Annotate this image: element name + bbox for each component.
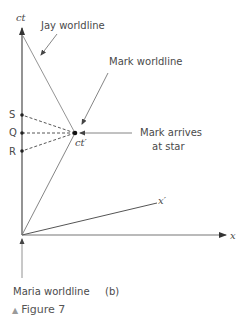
event-ct-prime-label: ct′	[75, 138, 87, 148]
x-axis-label: x	[230, 231, 236, 241]
x-prime-axis-label: x′	[158, 196, 166, 206]
figure-caption: ▲Figure 7	[12, 303, 65, 316]
point-S	[20, 113, 24, 117]
mark-arrives-label-line1: Mark arrives	[140, 128, 202, 138]
caption-text: Figure 7	[21, 303, 65, 316]
ct-axis-label: ct	[16, 13, 26, 23]
maria-worldline-label: Maria worldline	[13, 287, 90, 297]
jay-worldline-label: Jay worldline	[41, 21, 105, 31]
panel-label: (b)	[105, 287, 119, 297]
mark-worldline-label: Mark worldline	[109, 57, 182, 67]
point-R	[20, 149, 24, 153]
point-Q-label: Q	[9, 128, 17, 138]
point-R-label: R	[9, 147, 16, 157]
event-mark-arrives	[73, 131, 78, 136]
mark-pointer	[82, 73, 108, 124]
spacetime-diagram	[0, 0, 243, 320]
x-prime-axis	[22, 203, 157, 235]
point-S-label: S	[9, 110, 15, 120]
jay-pointer	[41, 34, 57, 55]
point-Q	[20, 131, 24, 135]
caption-triangle-icon: ▲	[12, 306, 18, 315]
mark-arrives-label-line2: at star	[152, 142, 185, 152]
